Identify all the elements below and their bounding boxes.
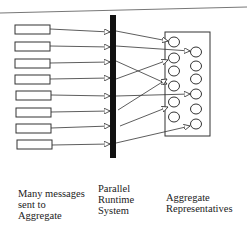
representative-circle	[169, 53, 180, 63]
sender-box	[16, 124, 51, 133]
sender-box	[15, 25, 50, 34]
senders-label: Many messages sent to Aggregate	[18, 188, 85, 221]
representative-circle	[169, 97, 180, 107]
representatives-label: Aggregate Representatives	[166, 192, 232, 214]
representative-circle	[191, 61, 202, 71]
representative-circle	[169, 81, 180, 91]
representative-circle	[169, 37, 180, 47]
representative-circle	[191, 74, 202, 84]
representative-circle	[191, 104, 202, 114]
sender-box	[16, 108, 51, 117]
runtime-label: Parallel Runtime System	[98, 183, 134, 216]
representative-circle	[191, 119, 202, 129]
sender-box	[16, 91, 51, 100]
sender-box	[15, 42, 50, 51]
runtime-system-bar	[110, 15, 116, 158]
top-rule	[0, 7, 247, 13]
sender-boxes	[15, 25, 52, 149]
representative-circle	[169, 112, 180, 122]
representative-circle	[191, 47, 202, 57]
sender-box	[17, 140, 52, 149]
sender-box	[15, 75, 50, 84]
representative-circle	[191, 89, 202, 99]
sender-arrows	[50, 29, 110, 145]
sender-box	[15, 59, 50, 68]
representative-circle	[169, 66, 180, 76]
